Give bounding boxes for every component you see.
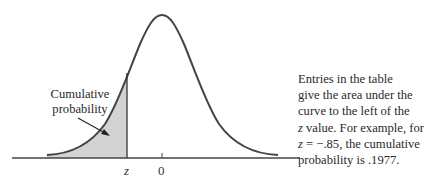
annotation-line-1: Cumulative: [40, 87, 120, 102]
caption-text: curve to the left of the: [298, 104, 410, 118]
caption-text: Entries in the table: [298, 72, 393, 86]
bell-curve: [47, 15, 278, 155]
caption-text: probability is .1977.: [298, 153, 399, 167]
caption-text: give the area under the: [298, 88, 413, 102]
caption-text: value. For example, for: [303, 121, 424, 135]
caption-line: probability is .1977.: [298, 152, 420, 168]
cumulative-probability-annotation: Cumulative probability: [40, 87, 120, 116]
caption-line: z value. For example, for: [298, 120, 420, 136]
caption-line: give the area under the: [298, 87, 420, 103]
caption-line: Entries in the table: [298, 71, 420, 87]
annotation-line-2: probability: [40, 102, 120, 117]
caption-line: z = −.85, the cumulative: [298, 136, 420, 152]
caption-line: curve to the left of the: [298, 103, 420, 119]
zero-axis-label: 0: [158, 163, 165, 178]
figure-caption: Entries in the table give the area under…: [298, 71, 420, 168]
caption-text: = −.85, the cumulative: [303, 137, 420, 151]
z-axis-label: z: [123, 163, 129, 178]
